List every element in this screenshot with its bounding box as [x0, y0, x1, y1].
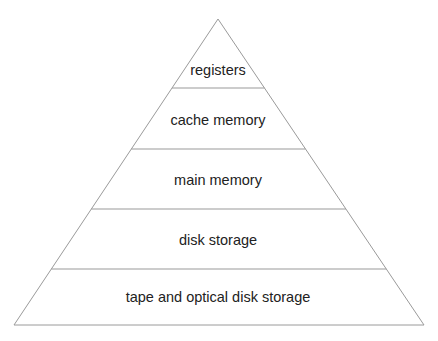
level-label-disk-storage: disk storage	[179, 232, 257, 248]
memory-hierarchy-pyramid: registers cache memory main memory disk …	[0, 0, 438, 341]
level-label-cache-memory: cache memory	[170, 112, 266, 128]
level-label-registers: registers	[190, 62, 246, 78]
level-label-main-memory: main memory	[174, 172, 263, 188]
level-label-tape-and-optical-disk-storage: tape and optical disk storage	[126, 289, 311, 305]
